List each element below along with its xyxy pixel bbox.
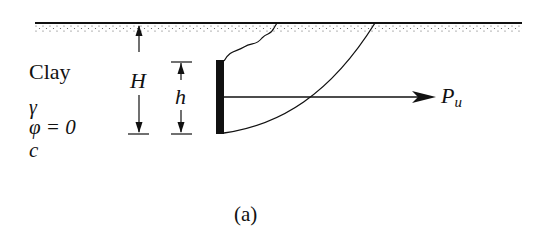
anchor-height-label: h	[175, 86, 186, 108]
total-depth-label: H	[130, 70, 146, 92]
force-label-subscript: u	[454, 94, 462, 110]
force-label-main: P	[441, 83, 454, 108]
ground-soil-stipple	[35, 24, 522, 33]
cohesion-symbol: c	[29, 140, 38, 161]
failure-arc	[224, 23, 375, 133]
friction-angle-label: φ = 0	[29, 117, 76, 138]
anchor-plate	[216, 60, 224, 134]
soil-material-label: Clay	[29, 61, 71, 83]
unit-weight-symbol: γ	[29, 97, 37, 117]
force-arrow	[224, 91, 436, 103]
anchor-diagram	[0, 0, 552, 249]
figure-caption: (a)	[234, 204, 257, 225]
force-label: Pu	[441, 85, 462, 110]
